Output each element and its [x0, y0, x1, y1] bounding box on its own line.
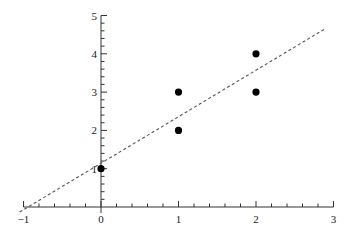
y-tick-label: 3 — [92, 86, 98, 98]
data-point — [175, 127, 182, 134]
x-tick-label: 2 — [253, 213, 259, 225]
data-points — [97, 50, 259, 172]
x-tick-label: 0 — [98, 213, 104, 225]
data-point — [175, 89, 182, 96]
data-point — [252, 50, 259, 57]
dashed-line — [20, 28, 326, 212]
axes — [24, 16, 334, 214]
data-point — [252, 89, 259, 96]
scatter-chart: −1012312345 — [0, 0, 353, 236]
x-tick-label: 1 — [176, 213, 182, 225]
x-tick-label: 3 — [331, 213, 337, 225]
y-tick-label: 4 — [92, 48, 98, 60]
data-point — [97, 165, 104, 172]
y-tick-label: 2 — [92, 124, 98, 136]
x-tick-label: −1 — [18, 213, 30, 225]
y-tick-label: 5 — [92, 10, 98, 22]
regression-line — [20, 28, 326, 212]
ticks — [24, 16, 334, 208]
